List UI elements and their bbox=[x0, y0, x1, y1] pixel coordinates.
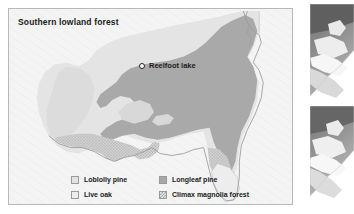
map-legend: Loblolly pine Longleaf pine Live oak Cli… bbox=[71, 172, 276, 202]
lake-annotation: Reelfoot lake bbox=[139, 61, 196, 70]
legend-swatch-loblolly-pine bbox=[71, 176, 79, 184]
photo-fragment-top-image bbox=[310, 4, 354, 102]
legend-swatch-live-oak bbox=[71, 191, 79, 199]
legend-item-live-oak[interactable]: Live oak bbox=[71, 191, 159, 199]
photo-fragment-bottom bbox=[310, 106, 354, 204]
legend-label-climax-magnolia-forest: Climax magnolia forest bbox=[172, 191, 249, 198]
legend-swatch-longleaf-pine bbox=[159, 176, 167, 184]
legend-label-live-oak: Live oak bbox=[84, 191, 112, 198]
map-figure: Southern lowland forest Reelfoot lake Lo… bbox=[8, 8, 293, 205]
photo-fragment-bottom-image bbox=[310, 106, 354, 204]
legend-item-loblolly-pine[interactable]: Loblolly pine bbox=[71, 176, 159, 184]
page-title: Southern lowland forest bbox=[18, 17, 119, 27]
legend-label-loblolly-pine: Loblolly pine bbox=[84, 176, 127, 183]
legend-item-longleaf-pine[interactable]: Longleaf pine bbox=[159, 176, 276, 184]
legend-swatch-climax-magnolia-forest bbox=[159, 191, 167, 199]
legend-label-longleaf-pine: Longleaf pine bbox=[172, 176, 218, 183]
circle-marker-icon bbox=[139, 63, 145, 69]
lake-annotation-label: Reelfoot lake bbox=[149, 61, 196, 70]
legend-item-climax-magnolia-forest[interactable]: Climax magnolia forest bbox=[159, 191, 276, 199]
photo-fragment-top bbox=[310, 4, 354, 102]
